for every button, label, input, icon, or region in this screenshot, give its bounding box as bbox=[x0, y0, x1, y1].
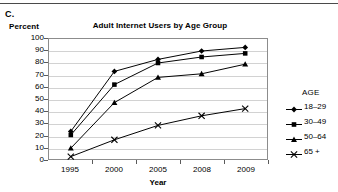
square-marker bbox=[243, 51, 248, 56]
triangle-marker bbox=[111, 100, 117, 105]
legend-title: AGE bbox=[302, 88, 338, 97]
legend-entry[interactable]: 18–29 bbox=[286, 101, 338, 116]
y-tick-label: 100 bbox=[18, 34, 44, 42]
y-tick-label: 40 bbox=[18, 107, 44, 115]
legend-entry[interactable]: 65 + bbox=[286, 146, 338, 161]
square-marker bbox=[112, 82, 117, 87]
x-tick-label: 2008 bbox=[182, 165, 222, 174]
square-marker bbox=[69, 133, 74, 138]
x-tick-mark bbox=[180, 160, 181, 164]
plot-inner bbox=[49, 39, 267, 159]
x-axis-title: Year bbox=[48, 178, 268, 187]
legend-label: 18–29 bbox=[304, 102, 326, 111]
y-tick-label: 20 bbox=[18, 132, 44, 140]
legend-swatch bbox=[286, 116, 302, 127]
y-axis-title: Percent bbox=[9, 22, 39, 31]
y-axis-tick-labels: 0102030405060708090100 bbox=[18, 38, 44, 160]
y-tick-label: 10 bbox=[18, 144, 44, 152]
panel-letter: C. bbox=[5, 9, 14, 19]
legend-entry[interactable]: 50–64 bbox=[286, 131, 338, 146]
legend-label: 65 + bbox=[304, 147, 320, 156]
square-marker bbox=[292, 122, 297, 127]
x-tick-label: 2005 bbox=[138, 165, 178, 174]
chart-title: Adult Internet Users by Age Group bbox=[60, 21, 260, 30]
x-tick-label: 1995 bbox=[50, 165, 90, 174]
y-tick-label: 30 bbox=[18, 119, 44, 127]
legend-label: 30–49 bbox=[304, 117, 326, 126]
legend-label: 50–64 bbox=[304, 132, 326, 141]
x-marker bbox=[68, 154, 74, 160]
header-divider bbox=[0, 3, 338, 4]
diamond-marker bbox=[199, 48, 205, 54]
legend-swatch bbox=[286, 131, 302, 142]
x-tick-label: 2009 bbox=[226, 165, 266, 174]
square-marker bbox=[199, 55, 204, 60]
diamond-marker bbox=[291, 107, 297, 113]
series-lines bbox=[49, 39, 267, 159]
x-marker bbox=[111, 137, 117, 143]
y-tick-label: 70 bbox=[18, 71, 44, 79]
x-tick-mark bbox=[268, 160, 269, 164]
x-axis-tick-labels: 19952000200520082009 bbox=[48, 165, 268, 177]
y-tick-label: 60 bbox=[18, 83, 44, 91]
y-tick-label: 90 bbox=[18, 46, 44, 54]
chart-legend: AGE 18–2930–4950–6465 + bbox=[286, 88, 338, 161]
x-tick-mark bbox=[136, 160, 137, 164]
legend-swatch bbox=[286, 101, 302, 112]
y-tick-label: 0 bbox=[18, 156, 44, 164]
legend-entries: 18–2930–4950–6465 + bbox=[286, 101, 338, 161]
series-line bbox=[71, 109, 245, 157]
legend-entry[interactable]: 30–49 bbox=[286, 116, 338, 131]
series-square bbox=[69, 51, 248, 137]
y-tick-label: 50 bbox=[18, 95, 44, 103]
legend-swatch bbox=[286, 146, 302, 157]
plot-area bbox=[48, 38, 268, 160]
x-tick-mark bbox=[92, 160, 93, 164]
x-tick-mark bbox=[224, 160, 225, 164]
series-triangle bbox=[68, 61, 248, 150]
square-marker bbox=[156, 61, 161, 66]
y-tick-label: 80 bbox=[18, 58, 44, 66]
triangle-marker bbox=[242, 61, 248, 66]
diamond-marker bbox=[242, 45, 248, 51]
series-diamond bbox=[68, 45, 248, 135]
series-x bbox=[68, 106, 249, 160]
series-line bbox=[71, 53, 245, 135]
x-tick-label: 2000 bbox=[94, 165, 134, 174]
